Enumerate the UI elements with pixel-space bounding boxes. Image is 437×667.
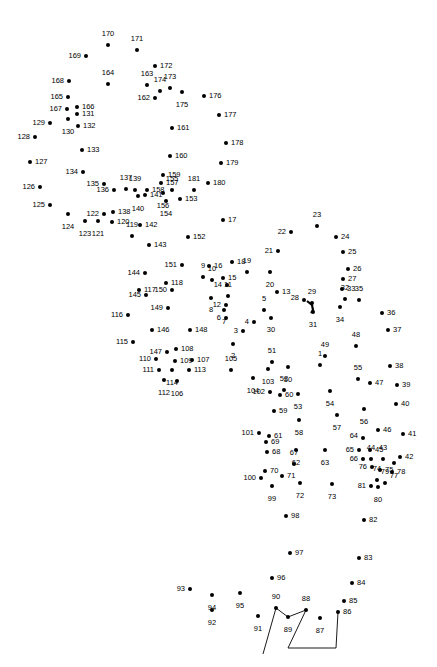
puzzle-dot[interactable] (168, 86, 172, 90)
puzzle-dot[interactable] (76, 124, 80, 128)
puzzle-dot[interactable] (178, 197, 182, 201)
puzzle-dot[interactable] (75, 112, 79, 116)
puzzle-dot[interactable] (145, 83, 149, 87)
puzzle-dot[interactable] (268, 390, 272, 394)
puzzle-dot[interactable] (144, 293, 148, 297)
puzzle-dot[interactable] (370, 465, 374, 469)
puzzle-dot[interactable] (126, 313, 130, 317)
puzzle-dot[interactable] (166, 306, 170, 310)
puzzle-dot[interactable] (315, 224, 319, 228)
puzzle-dot[interactable] (272, 409, 276, 413)
puzzle-dot[interactable] (280, 474, 284, 478)
puzzle-dot[interactable] (335, 413, 339, 417)
puzzle-dot[interactable] (188, 328, 192, 332)
puzzle-dot[interactable] (170, 288, 174, 292)
puzzle-dot[interactable] (376, 485, 380, 489)
puzzle-dot[interactable] (226, 294, 230, 298)
puzzle-dot[interactable] (263, 469, 267, 473)
puzzle-dot[interactable] (168, 154, 172, 158)
puzzle-dot[interactable] (65, 107, 69, 111)
puzzle-dot[interactable] (231, 342, 235, 346)
puzzle-dot[interactable] (343, 297, 347, 301)
puzzle-dot[interactable] (221, 276, 225, 280)
puzzle-dot[interactable] (296, 392, 300, 396)
puzzle-dot[interactable] (170, 188, 174, 192)
puzzle-dot[interactable] (66, 95, 70, 99)
puzzle-dot[interactable] (202, 94, 206, 98)
puzzle-dot[interactable] (225, 283, 229, 287)
puzzle-dot[interactable] (278, 393, 282, 397)
puzzle-dot[interactable] (368, 381, 372, 385)
puzzle-dot[interactable] (111, 210, 115, 214)
puzzle-dot[interactable] (110, 220, 114, 224)
puzzle-dot[interactable] (112, 188, 116, 192)
puzzle-dot[interactable] (276, 249, 280, 253)
puzzle-dot[interactable] (143, 271, 147, 275)
puzzle-dot[interactable] (354, 344, 358, 348)
puzzle-dot[interactable] (388, 364, 392, 368)
puzzle-dot[interactable] (154, 357, 158, 361)
puzzle-dot[interactable] (361, 457, 365, 461)
puzzle-dot[interactable] (270, 360, 274, 364)
puzzle-dot[interactable] (106, 43, 110, 47)
puzzle-dot[interactable] (66, 212, 70, 216)
puzzle-dot[interactable] (380, 311, 384, 315)
puzzle-dot[interactable] (334, 235, 338, 239)
puzzle-dot[interactable] (147, 243, 151, 247)
puzzle-dot[interactable] (368, 448, 372, 452)
puzzle-dot[interactable] (83, 219, 87, 223)
puzzle-dot[interactable] (259, 476, 263, 480)
puzzle-dot[interactable] (230, 260, 234, 264)
puzzle-dot[interactable] (170, 126, 174, 130)
puzzle-dot[interactable] (143, 193, 147, 197)
puzzle-dot[interactable] (48, 121, 52, 125)
puzzle-dot[interactable] (275, 290, 279, 294)
puzzle-dot[interactable] (357, 298, 361, 302)
puzzle-dot[interactable] (67, 79, 71, 83)
puzzle-dot[interactable] (188, 587, 192, 591)
puzzle-dot[interactable] (245, 270, 249, 274)
puzzle-dot[interactable] (265, 450, 269, 454)
puzzle-dot[interactable] (222, 308, 226, 312)
puzzle-dot[interactable] (269, 316, 273, 320)
puzzle-dot[interactable] (84, 54, 88, 58)
puzzle-dot[interactable] (158, 89, 162, 93)
puzzle-dot[interactable] (342, 599, 346, 603)
puzzle-dot[interactable] (268, 270, 272, 274)
puzzle-dot[interactable] (238, 591, 242, 595)
puzzle-dot[interactable] (323, 354, 327, 358)
puzzle-dot[interactable] (270, 484, 274, 488)
puzzle-dot[interactable] (219, 161, 223, 165)
puzzle-dot[interactable] (264, 440, 268, 444)
puzzle-dot[interactable] (376, 428, 380, 432)
puzzle-dot[interactable] (150, 328, 154, 332)
puzzle-dot[interactable] (386, 328, 390, 332)
puzzle-dot[interactable] (131, 340, 135, 344)
puzzle-dot[interactable] (106, 82, 110, 86)
puzzle-dot[interactable] (96, 219, 100, 223)
puzzle-dot[interactable] (369, 457, 373, 461)
puzzle-dot[interactable] (357, 448, 361, 452)
puzzle-dot[interactable] (341, 250, 345, 254)
puzzle-dot[interactable] (180, 263, 184, 267)
puzzle-dot[interactable] (395, 383, 399, 387)
puzzle-dot[interactable] (356, 377, 360, 381)
puzzle-dot[interactable] (174, 347, 178, 351)
puzzle-dot[interactable] (270, 576, 274, 580)
puzzle-dot[interactable] (289, 230, 293, 234)
puzzle-dot[interactable] (286, 365, 290, 369)
puzzle-dot[interactable] (297, 418, 301, 422)
puzzle-dot[interactable] (124, 187, 128, 191)
puzzle-dot[interactable] (217, 113, 221, 117)
puzzle-dot[interactable] (187, 368, 191, 372)
puzzle-dot[interactable] (266, 367, 270, 371)
puzzle-dot[interactable] (350, 581, 354, 585)
puzzle-dot[interactable] (192, 188, 196, 192)
puzzle-dot[interactable] (136, 194, 140, 198)
puzzle-dot[interactable] (361, 436, 365, 440)
puzzle-dot[interactable] (157, 368, 161, 372)
puzzle-dot[interactable] (180, 90, 184, 94)
puzzle-dot[interactable] (274, 606, 278, 610)
puzzle-dot[interactable] (257, 431, 261, 435)
puzzle-dot[interactable] (328, 389, 332, 393)
